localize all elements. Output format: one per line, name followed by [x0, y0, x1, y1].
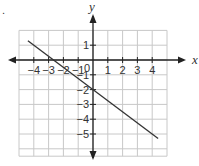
- x-tick-label: 2: [120, 64, 126, 76]
- y-tick-label: −5: [76, 128, 89, 140]
- y-axis-label: y: [87, 0, 95, 14]
- x-axis-left-arrow-icon: [8, 57, 16, 64]
- y-axis-down-arrow-icon: [90, 151, 97, 160]
- x-tick-label: 1: [105, 64, 111, 76]
- x-axis-label: x: [191, 52, 198, 67]
- axes: [8, 14, 186, 160]
- y-tick-label: −3: [76, 98, 89, 110]
- y-tick-label: 1: [83, 39, 89, 51]
- x-axis-right-arrow-icon: [178, 57, 186, 64]
- x-tick-label: 3: [134, 64, 140, 76]
- corner-mark: .: [2, 4, 5, 16]
- y-axis-up-arrow-icon: [90, 14, 97, 23]
- origin-label: 0: [84, 62, 90, 74]
- x-tick-label: 4: [149, 64, 155, 76]
- coordinate-plane: −4−3−2−112341−1−2−3−4−50 . y x: [0, 0, 199, 166]
- x-tick-label: −4: [28, 64, 41, 76]
- y-tick-label: −4: [76, 113, 89, 125]
- x-tick-label: −3: [42, 64, 55, 76]
